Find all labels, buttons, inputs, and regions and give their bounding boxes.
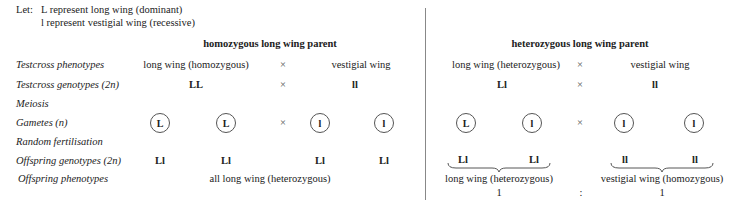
grouping-braces bbox=[0, 0, 734, 201]
hetero-phenotype-vestigial: vestigial wing (homozygous) bbox=[601, 173, 723, 184]
ratio-long: 1 bbox=[496, 187, 501, 198]
hetero-phenotype-long: long wing (heterozygous) bbox=[445, 173, 553, 184]
ratio-vestigial: 1 bbox=[659, 187, 664, 198]
ratio-separator: : bbox=[580, 187, 583, 198]
